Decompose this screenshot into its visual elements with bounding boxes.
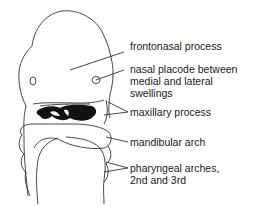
label-nasal-placode: nasal placode between medial and lateral… xyxy=(130,63,237,99)
head-outline xyxy=(19,11,113,196)
label-mandibular-arch: mandibular arch xyxy=(130,136,205,148)
label-maxillary-process: maxillary process xyxy=(130,106,211,118)
mandibular-arch xyxy=(20,124,111,149)
label-pharyngeal-arches: pharyngeal arches, 2nd and 3rd xyxy=(130,162,219,186)
label-frontonasal-process: frontonasal process xyxy=(130,40,222,52)
left-nasal-placode xyxy=(30,77,36,85)
